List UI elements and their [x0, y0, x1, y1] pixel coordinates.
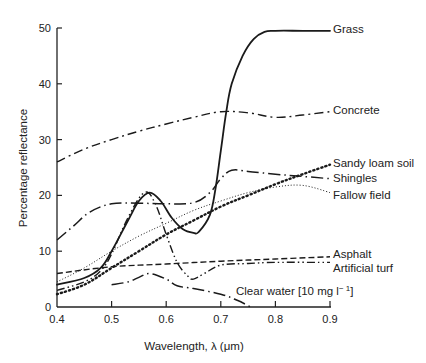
series-line-sandy-loam-soil — [57, 165, 330, 295]
y-ticks: 01020304050 — [39, 22, 62, 313]
label-asphalt: Asphalt — [333, 248, 372, 260]
series-line-grass — [57, 31, 330, 285]
chart-canvas: 01020304050 0.40.50.60.70.80.9 Wavelengt… — [0, 0, 426, 363]
x-ticks: 0.40.50.60.70.80.9 — [49, 301, 337, 325]
reflectance-chart: 01020304050 0.40.50.60.70.80.9 Wavelengt… — [0, 0, 426, 363]
y-tick-label: 20 — [39, 189, 51, 201]
label-sandy-loam-soil: Sandy loam soil — [333, 157, 414, 169]
x-axis-label: Wavelength, λ (μm) — [144, 340, 244, 352]
label-concrete: Concrete — [333, 104, 380, 116]
x-tick-label: 0.6 — [159, 313, 174, 325]
series-layer — [57, 31, 330, 307]
label-grass: Grass — [333, 23, 364, 35]
y-tick-label: 50 — [39, 22, 51, 34]
label-fallow-field: Fallow field — [333, 189, 391, 201]
y-tick-label: 10 — [39, 245, 51, 257]
label-artificial-turf: Artificial turf — [333, 262, 394, 274]
series-line-shingles — [57, 170, 330, 240]
series-line-concrete — [57, 111, 330, 162]
label-clear-water-main: Clear water [10 mg l — [236, 285, 339, 297]
label-clear-water-close: ] — [350, 285, 353, 297]
y-axis-label: Percentage reflectance — [17, 109, 29, 227]
x-tick-label: 0.5 — [104, 313, 119, 325]
x-tick-label: 0.9 — [322, 313, 337, 325]
series-line-artificial-turf — [57, 192, 330, 290]
label-shingles: Shingles — [333, 172, 377, 184]
label-clear-water: Clear water [10 mg l− 1] — [236, 284, 353, 297]
chart-axes: 01020304050 0.40.50.60.70.80.9 Wavelengt… — [17, 22, 338, 352]
y-tick-label: 0 — [45, 301, 51, 313]
y-tick-label: 30 — [39, 134, 51, 146]
label-clear-water-sup: − 1 — [339, 284, 351, 293]
x-tick-label: 0.7 — [213, 313, 228, 325]
series-labels: Grass Concrete Sandy loam soil Shingles … — [236, 23, 414, 297]
series-line-clear-water-mg-l — [112, 273, 251, 307]
x-tick-label: 0.4 — [49, 313, 64, 325]
y-tick-label: 40 — [39, 78, 51, 90]
x-tick-label: 0.8 — [268, 313, 283, 325]
